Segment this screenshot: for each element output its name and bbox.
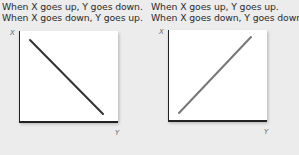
relationship-lines — [0, 0, 299, 155]
positive-trend-line — [179, 37, 251, 113]
negative-trend-line — [30, 40, 103, 114]
